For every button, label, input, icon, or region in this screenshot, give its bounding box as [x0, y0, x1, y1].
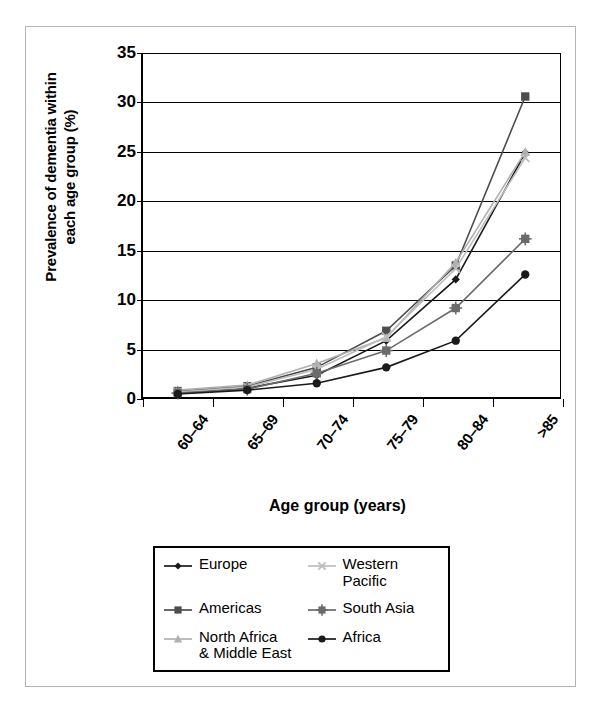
x-tick-mark: [213, 399, 214, 407]
circle-marker: [307, 630, 337, 648]
legend-item[interactable]: North Africa & Middle East: [163, 629, 299, 663]
data-point-marker: [521, 270, 529, 278]
x-tick-label: 75–79: [383, 411, 421, 453]
legend-label: Europe: [199, 556, 247, 573]
crossed-square-marker: [307, 601, 337, 619]
y-axis-title-line1: Prevalence of dementia within: [42, 72, 59, 281]
square-marker: [163, 601, 193, 619]
x-tick-label: >85: [533, 411, 562, 441]
x-tick-label: 80–84: [453, 411, 491, 453]
data-point-marker: [313, 379, 321, 387]
data-point-marker: [174, 390, 182, 398]
legend-label: North Africa & Middle East: [199, 629, 292, 663]
x-tick-label: 60–64: [173, 411, 211, 453]
x-tick-mark: [423, 399, 424, 407]
x-tick-mark: [563, 399, 564, 407]
data-point-marker: [452, 336, 460, 344]
legend-grid: EuropeWestern PacificAmericasSouth AsiaN…: [163, 556, 442, 662]
legend-label: Western Pacific: [343, 556, 399, 590]
x-tick-mark: [283, 399, 284, 407]
x-tick-mark: [143, 399, 144, 407]
series-line: [174, 270, 530, 398]
legend-label: South Asia: [343, 600, 415, 617]
y-axis-title-line2: each age group (%): [61, 110, 78, 245]
data-point-marker: [380, 344, 393, 357]
legend-item[interactable]: Europe: [163, 556, 299, 590]
x-tick-label: 70–74: [313, 411, 351, 453]
cross-marker: [307, 557, 337, 575]
figure-panel: Prevalence of dementia within each age g…: [25, 26, 576, 687]
legend-label: Americas: [199, 600, 262, 617]
series-line: [174, 154, 530, 397]
series-layer: [143, 53, 560, 399]
x-tick-mark: [353, 399, 354, 407]
data-point-marker: [382, 363, 390, 371]
legend-item[interactable]: Western Pacific: [307, 556, 443, 590]
triangle-marker: [163, 630, 193, 648]
legend-item[interactable]: Americas: [163, 600, 299, 619]
data-point-marker: [521, 92, 529, 100]
plot-inner: 05101520253035 60–6465–6970–7475–7980–84…: [141, 53, 561, 399]
series-line: [171, 232, 531, 399]
legend-label: Africa: [343, 629, 381, 646]
x-axis-title: Age group (years): [114, 497, 561, 515]
series-line: [174, 149, 530, 398]
y-axis-title: Prevalence of dementia within each age g…: [31, 12, 91, 342]
legend-item[interactable]: Africa: [307, 629, 443, 663]
plot-area: 05101520253035 60–6465–6970–7475–7980–84…: [114, 47, 561, 399]
data-point-marker: [243, 386, 251, 394]
diamond-marker: [163, 557, 193, 575]
x-tick-mark: [493, 399, 494, 407]
x-tick-label: 65–69: [243, 411, 281, 453]
legend-item[interactable]: South Asia: [307, 600, 443, 619]
chart-legend: EuropeWestern PacificAmericasSouth AsiaN…: [153, 546, 450, 672]
